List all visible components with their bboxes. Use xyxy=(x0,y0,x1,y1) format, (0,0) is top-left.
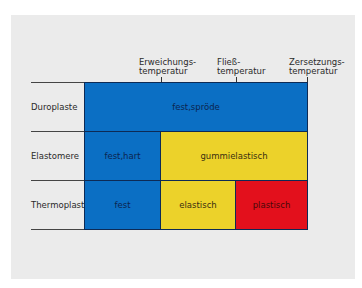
cell-elastomere-gummielastisch: gummielastisch xyxy=(160,131,308,181)
row-line-top xyxy=(31,82,85,83)
cell-thermoplaste-plastisch: plastisch xyxy=(235,180,308,230)
cell-label: gummielastisch xyxy=(200,151,267,161)
row-line-2 xyxy=(31,180,85,181)
cell-label: fest xyxy=(115,200,131,210)
row-label-thermoplaste: Thermoplaste xyxy=(31,200,90,210)
row-label-elastomere: Elastomere xyxy=(31,151,79,161)
cell-label: fest,spröde xyxy=(172,102,220,112)
cell-label: fest,hart xyxy=(104,151,140,161)
cell-label: plastisch xyxy=(253,200,291,210)
row-line-bottom xyxy=(31,229,85,230)
header-zersetzungstemperatur: Zersetzungs- temperatur xyxy=(289,58,345,76)
row-label-duroplaste: Duroplaste xyxy=(31,102,77,112)
header-fliesstemperatur: Fließ- temperatur xyxy=(217,58,265,76)
cell-thermoplaste-elastisch: elastisch xyxy=(160,180,236,230)
cell-label: elastisch xyxy=(179,200,216,210)
header-erweichungstemperatur: Erweichungs- temperatur xyxy=(139,58,196,76)
cell-duroplaste-fest-sproede: fest,spröde xyxy=(84,82,308,132)
cell-elastomere-fest-hart: fest,hart xyxy=(84,131,161,181)
row-line-1 xyxy=(31,131,85,132)
cell-thermoplaste-fest: fest xyxy=(84,180,161,230)
